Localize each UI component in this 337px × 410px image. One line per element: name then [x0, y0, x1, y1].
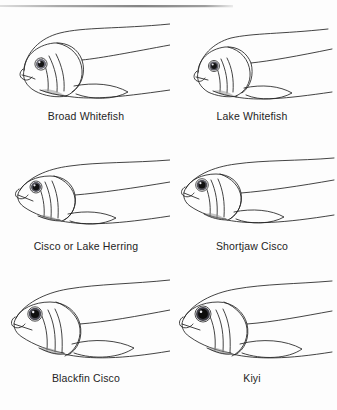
- fish-illustration-cisco-or-lake-herring: [2, 142, 170, 246]
- figure-caption-broad-whitefish: Broad Whitefish: [2, 110, 170, 122]
- plate-page: Broad Whitefish: [0, 0, 337, 410]
- fish-illustration-blackfin-cisco: [2, 274, 170, 378]
- fish-illustration-shortjaw-cisco: [168, 142, 336, 246]
- figure-caption-blackfin-cisco: Blackfin Cisco: [2, 372, 170, 384]
- fish-illustration-kiyi: [168, 274, 336, 378]
- figure-cell-kiyi: Kiyi: [168, 274, 336, 407]
- figure-caption-kiyi: Kiyi: [168, 372, 336, 384]
- fish-illustration-lake-whitefish: [168, 12, 336, 116]
- figure-cell-broad-whitefish: Broad Whitefish: [2, 12, 170, 145]
- figure-caption-cisco-or-lake-herring: Cisco or Lake Herring: [2, 240, 170, 252]
- figure-caption-lake-whitefish: Lake Whitefish: [168, 110, 336, 122]
- figure-grid: Broad Whitefish: [0, 12, 337, 410]
- figure-caption-shortjaw-cisco: Shortjaw Cisco: [168, 240, 336, 252]
- fish-illustration-broad-whitefish: [2, 12, 170, 116]
- figure-cell-shortjaw-cisco: Shortjaw Cisco: [168, 142, 336, 275]
- figure-cell-blackfin-cisco: Blackfin Cisco: [2, 274, 170, 407]
- top-rule-shadow: [0, 7, 233, 8]
- figure-cell-lake-whitefish: Lake Whitefish: [168, 12, 336, 145]
- figure-cell-cisco-or-lake-herring: Cisco or Lake Herring: [2, 142, 170, 275]
